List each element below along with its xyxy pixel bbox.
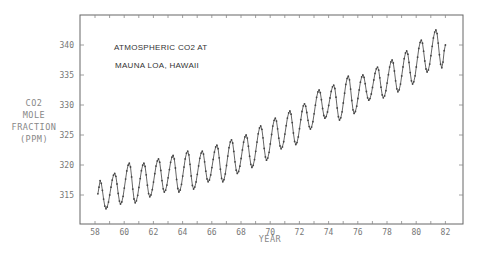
data-point — [277, 128, 279, 130]
data-point — [151, 189, 153, 191]
data-point — [143, 162, 145, 164]
data-point — [294, 141, 296, 143]
data-point — [367, 97, 369, 99]
data-point — [189, 163, 191, 165]
data-point — [358, 89, 360, 91]
data-point — [355, 111, 357, 113]
data-point — [179, 189, 181, 191]
x-tick-label: 66 — [207, 228, 217, 237]
data-point — [321, 99, 323, 101]
data-point — [389, 66, 391, 68]
data-point — [173, 158, 175, 160]
data-point — [260, 125, 262, 127]
data-point — [425, 68, 427, 70]
data-point — [344, 92, 346, 94]
data-point — [405, 52, 407, 54]
data-point — [414, 75, 416, 77]
data-point — [144, 166, 146, 168]
data-point — [345, 84, 347, 86]
data-point — [288, 112, 290, 114]
data-point — [142, 164, 144, 166]
data-point — [325, 116, 327, 118]
data-point — [190, 175, 192, 177]
data-point — [210, 174, 212, 176]
data-point — [431, 45, 433, 47]
data-point — [222, 181, 224, 183]
data-point — [287, 117, 289, 119]
data-point — [159, 161, 161, 163]
data-point — [407, 53, 409, 55]
data-point — [114, 173, 116, 175]
data-point — [302, 105, 304, 107]
data-point — [224, 173, 226, 175]
data-point — [238, 171, 240, 173]
data-point — [401, 75, 403, 77]
data-point — [411, 80, 413, 82]
data-point — [172, 155, 174, 157]
data-point — [338, 116, 340, 118]
data-point — [105, 208, 107, 210]
data-point — [131, 176, 133, 178]
data-point — [265, 156, 267, 158]
data-point — [138, 187, 140, 189]
data-point — [158, 158, 160, 160]
data-point — [412, 83, 414, 85]
data-point — [166, 184, 168, 186]
data-point — [340, 117, 342, 119]
data-point — [295, 144, 297, 146]
data-point — [418, 48, 420, 50]
y-tick-label: 340 — [60, 41, 75, 50]
data-point — [375, 68, 377, 70]
data-point — [261, 128, 263, 130]
data-point — [395, 80, 397, 82]
data-point — [439, 54, 441, 56]
data-point — [266, 159, 268, 161]
data-point — [347, 75, 349, 77]
data-point — [433, 37, 435, 39]
data-point — [156, 160, 158, 162]
data-point — [333, 84, 335, 86]
data-point — [283, 141, 285, 143]
data-point — [423, 50, 425, 52]
data-point — [249, 155, 251, 157]
data-point — [97, 193, 99, 195]
data-point — [232, 142, 234, 144]
data-point — [259, 127, 261, 129]
data-point — [413, 81, 415, 83]
data-point — [127, 164, 129, 166]
data-point — [122, 195, 124, 197]
data-point — [211, 167, 213, 169]
data-point — [163, 191, 165, 193]
data-point — [424, 60, 426, 62]
data-point — [130, 166, 132, 168]
data-point — [403, 58, 405, 60]
y-tick-label: 320 — [60, 161, 75, 170]
data-point — [233, 151, 235, 153]
data-point — [203, 153, 205, 155]
data-point — [226, 165, 228, 167]
data-point — [126, 170, 128, 172]
data-point — [329, 97, 331, 99]
data-point — [370, 93, 372, 95]
data-point — [199, 157, 201, 159]
data-point — [334, 88, 336, 90]
data-point — [186, 152, 188, 154]
ylabel-line-1: CO2 — [26, 98, 43, 108]
data-point — [231, 139, 233, 141]
data-point — [366, 91, 368, 93]
data-point — [342, 102, 344, 104]
data-point — [300, 119, 302, 121]
data-point — [357, 98, 359, 100]
data-point — [250, 163, 252, 165]
data-point — [183, 166, 185, 168]
y-tick-label: 335 — [60, 71, 75, 80]
data-point — [255, 150, 257, 152]
y-tick-label: 330 — [60, 101, 75, 110]
data-point — [305, 105, 307, 107]
data-point — [139, 178, 141, 180]
data-point — [352, 109, 354, 111]
data-point — [397, 91, 399, 93]
data-point — [108, 201, 110, 203]
data-point — [273, 119, 275, 121]
data-point — [364, 83, 366, 85]
